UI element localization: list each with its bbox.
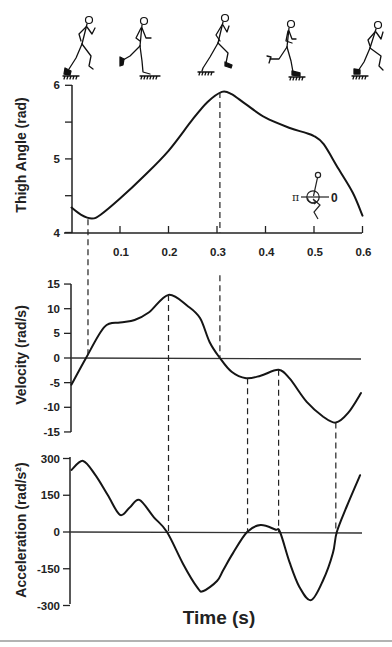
runner-phase-5-icon <box>352 22 383 80</box>
y-tick-label: -300 <box>37 600 60 612</box>
runner-phase-3-icon <box>198 15 232 76</box>
y-tick-label: 5 <box>54 327 61 339</box>
y-tick-label: 150 <box>41 489 60 501</box>
y-tick-label: -15 <box>43 426 60 438</box>
velocity-ticks: 151050-5-10-15 <box>43 278 71 438</box>
runner-phase-4-icon <box>267 21 305 81</box>
thigh-angle-convention-icon: π 0 <box>292 172 338 219</box>
x-tick-label: 0.3 <box>210 246 226 258</box>
acceleration-panel: 3001500-150-300 <box>37 453 362 612</box>
y-tick-label: 5 <box>54 153 61 165</box>
y-tick-label: 0 <box>54 352 60 364</box>
y-tick-label: 0 <box>54 526 60 538</box>
y-tick-label: 6 <box>54 79 60 91</box>
runner-phase-2-icon <box>120 18 160 80</box>
velocity-panel: 151050-5-10-15 <box>43 278 361 438</box>
acceleration-zero-line <box>70 532 362 533</box>
x-tick-label: 0.4 <box>259 246 276 258</box>
y-tick-label: -10 <box>43 401 60 413</box>
y-tick-label: 300 <box>41 453 60 465</box>
inset-zero-label: 0 <box>331 191 338 205</box>
event-marker-lines <box>88 92 336 532</box>
x-tick-label: 0.1 <box>113 246 130 258</box>
x-tick-label: 0.5 <box>307 246 324 258</box>
acceleration-axis-title: Acceleration (rad/s²) <box>13 462 29 597</box>
thigh-angle-panel: 6540.10.20.30.40.50.6 <box>54 79 372 258</box>
thigh-angle-axis-title: Thigh Angle (rad) <box>13 97 29 212</box>
time-axis-title: Time (s) <box>183 607 256 628</box>
x-tick-label: 0.6 <box>356 246 372 258</box>
velocity-zero-line <box>71 358 361 359</box>
y-tick-label: 4 <box>54 227 61 239</box>
runner-phase-1-icon <box>63 17 95 80</box>
inset-pi-label: π <box>292 191 299 204</box>
runner-sequence <box>63 15 383 81</box>
y-tick-label: -150 <box>37 563 60 575</box>
acceleration-ticks: 3001500-150-300 <box>37 453 70 612</box>
y-tick-label: -5 <box>50 377 61 389</box>
acceleration-curve <box>72 461 361 600</box>
velocity-axis-title: Velocity (rad/s) <box>13 305 29 405</box>
x-tick-label: 0.2 <box>162 246 178 258</box>
y-tick-label: 10 <box>47 303 60 315</box>
running-kinematics-figure: Thigh Angle (rad) Velocity (rad/s) Accel… <box>0 0 392 647</box>
y-tick-label: 15 <box>47 278 60 290</box>
thigh-angle-ticks: 6540.10.20.30.40.50.6 <box>54 79 372 258</box>
